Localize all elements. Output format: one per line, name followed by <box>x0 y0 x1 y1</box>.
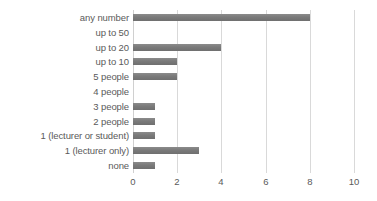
bar <box>133 147 199 154</box>
bar <box>133 103 155 110</box>
gridline-8 <box>310 10 311 173</box>
category-label: 1 (lecturer or student) <box>0 130 129 141</box>
bar <box>133 118 155 125</box>
x-tick-label: 2 <box>157 176 197 188</box>
bar <box>133 132 155 139</box>
gridline-6 <box>266 10 267 173</box>
x-tick-label: 0 <box>113 176 153 188</box>
x-tick-label: 10 <box>334 176 374 188</box>
x-tick-label: 4 <box>201 176 241 188</box>
category-label: 1 (lecturer only) <box>0 145 129 156</box>
category-label: up to 50 <box>0 27 129 38</box>
category-label: 3 people <box>0 101 129 112</box>
value-axis: 0246810 <box>133 176 354 192</box>
plot-area <box>133 10 354 173</box>
category-label: none <box>0 160 129 171</box>
bar-chart: any numberup to 50up to 20up to 105 peop… <box>0 0 377 201</box>
bar <box>133 162 155 169</box>
bar <box>133 14 310 21</box>
gridline-10 <box>354 10 355 173</box>
category-label: up to 20 <box>0 42 129 53</box>
category-label: up to 10 <box>0 56 129 67</box>
category-label: any number <box>0 12 129 23</box>
bar <box>133 44 221 51</box>
category-label: 2 people <box>0 116 129 127</box>
category-label: 4 people <box>0 86 129 97</box>
x-tick-label: 6 <box>246 176 286 188</box>
bar <box>133 73 177 80</box>
x-tick-label: 8 <box>290 176 330 188</box>
gridline-4 <box>221 10 222 173</box>
category-label: 5 people <box>0 71 129 82</box>
category-axis: any numberup to 50up to 20up to 105 peop… <box>0 10 129 173</box>
bar <box>133 58 177 65</box>
